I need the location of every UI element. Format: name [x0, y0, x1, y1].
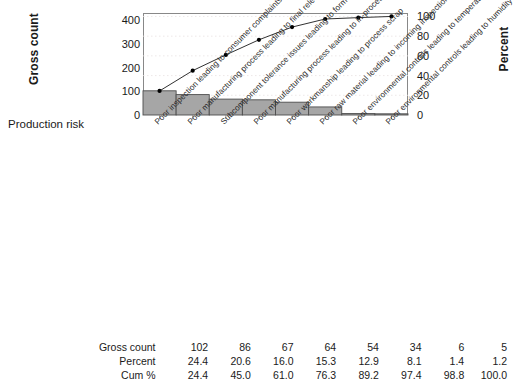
table-cell: 24.4 [166, 355, 209, 369]
table-row: Gross count102866764543465 [66, 341, 507, 355]
y-axis-left-title: Gross count [27, 0, 41, 104]
pareto-table: Gross count102866764543465Percent24.420.… [66, 341, 507, 383]
table-cell: 97.4 [379, 369, 422, 383]
y-axis-left-tick-label: 300 [108, 38, 140, 50]
table-cell: 24.4 [166, 369, 209, 383]
table-row-label: Gross count [66, 341, 166, 355]
table-cell: 1.4 [422, 355, 465, 369]
table-cell: 6 [422, 341, 465, 355]
y-axis-left-tick-label: 200 [108, 62, 140, 74]
data-point-marker [157, 89, 161, 93]
table-cell: 61.0 [251, 369, 294, 383]
table-cell: 102 [166, 341, 209, 355]
summary-data-table: Gross count102866764543465Percent24.420.… [0, 341, 507, 383]
x-axis-category-labels: Poor inspection leading to consumer comp… [0, 115, 507, 330]
table-cell: 45.0 [208, 369, 251, 383]
y-axis-left-tick-label: 400 [108, 14, 140, 26]
table-cell: 86 [208, 341, 251, 355]
table-cell: 12.9 [336, 355, 379, 369]
table-row-label: Cum % [66, 369, 166, 383]
table-row-label: Percent [66, 355, 166, 369]
table-cell: 20.6 [208, 355, 251, 369]
table-cell: 89.2 [336, 369, 379, 383]
gridlines [143, 16, 408, 95]
table-cell: 15.3 [294, 355, 337, 369]
y-axis-left-tick-label: 100 [108, 85, 140, 97]
table-cell: 8.1 [379, 355, 422, 369]
table-cell: 54 [336, 341, 379, 355]
table-cell: 1.2 [464, 355, 507, 369]
data-point-marker [191, 69, 195, 73]
table-cell: 100.0 [464, 369, 507, 383]
table-cell: 98.8 [422, 369, 465, 383]
table-cell: 16.0 [251, 355, 294, 369]
table-cell: 76.3 [294, 369, 337, 383]
table-cell: 5 [464, 341, 507, 355]
table-cell: 64 [294, 341, 337, 355]
table-cell: 34 [379, 341, 422, 355]
data-point-marker [257, 38, 261, 42]
table-row: Cum %24.445.061.076.389.297.498.8100.0 [66, 369, 507, 383]
table-row: Percent24.420.616.015.312.98.11.41.2 [66, 355, 507, 369]
table-cell: 67 [251, 341, 294, 355]
